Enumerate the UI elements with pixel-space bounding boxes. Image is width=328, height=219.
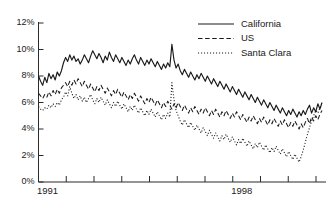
line-chart: 0%2%4%6%8%10%12% 19911998 CaliforniaUSSa…: [0, 0, 328, 219]
x-tick-label: 1998: [231, 185, 252, 196]
y-tick-label: 8%: [21, 70, 34, 80]
y-tick-label: 4%: [21, 123, 34, 133]
y-tick-label: 10%: [16, 44, 34, 54]
legend-label-california: California: [241, 18, 282, 29]
y-axis-labels: 0%2%4%6%8%10%12%: [16, 17, 34, 186]
chart-canvas: 0%2%4%6%8%10%12% 19911998 CaliforniaUSSa…: [0, 0, 328, 219]
chart-legend: CaliforniaUSSanta Clara: [198, 18, 292, 58]
y-tick-label: 2%: [21, 150, 34, 160]
x-axis-ticks: [39, 176, 317, 182]
x-axis-labels: 19911998: [37, 185, 252, 196]
y-tick-label: 6%: [21, 97, 34, 107]
series-line-santa-clara: [39, 83, 323, 163]
legend-label-santa-clara: Santa Clara: [241, 47, 292, 58]
y-tick-label: 0%: [21, 176, 34, 186]
series-lines: [39, 44, 323, 162]
y-axis-ticks: [39, 23, 44, 182]
legend-label-us: US: [241, 32, 254, 43]
y-tick-label: 12%: [16, 17, 34, 27]
series-line-us: [39, 79, 323, 129]
x-tick-label: 1991: [37, 185, 58, 196]
